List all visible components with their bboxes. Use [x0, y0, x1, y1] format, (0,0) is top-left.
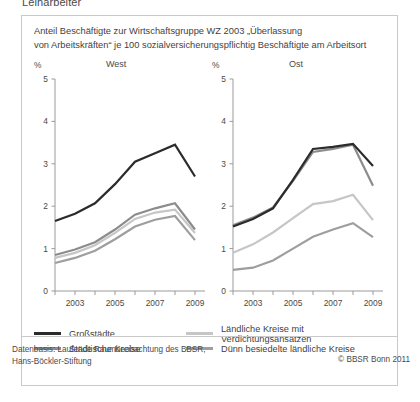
- legend-swatch-icon: [186, 332, 213, 335]
- svg-text:2007: 2007: [146, 298, 165, 308]
- legend-item-laendliche-verdichtung: Ländliche Kreise mit Verdichtungsansätze…: [186, 324, 386, 344]
- svg-text:2005: 2005: [106, 298, 125, 308]
- legend-label: Großstädte: [69, 329, 115, 339]
- series-line: [233, 145, 373, 226]
- series-line: [233, 223, 373, 270]
- legend-swatch-icon: [34, 332, 61, 335]
- data-source-note: Datenbasis: Laufende Raumbeobachtung des…: [12, 344, 364, 367]
- svg-text:2009: 2009: [364, 298, 383, 308]
- series-line: [233, 144, 373, 227]
- legend-row-1: Großstädte Ländliche Kreise mit Verdicht…: [34, 326, 386, 341]
- footer-divider: [21, 336, 398, 337]
- legend-item-grossstaedte: Großstädte: [34, 329, 186, 339]
- svg-text:1: 1: [43, 244, 48, 254]
- svg-text:4: 4: [221, 116, 226, 126]
- page-heading: Leiharbeiter: [22, 0, 81, 8]
- svg-text:2009: 2009: [186, 298, 205, 308]
- series-line: [55, 203, 195, 255]
- svg-text:2: 2: [43, 201, 48, 211]
- svg-text:5: 5: [221, 74, 226, 84]
- svg-text:2003: 2003: [244, 298, 263, 308]
- panel-ost: 0123452003200520072009: [221, 74, 383, 308]
- svg-text:2007: 2007: [324, 298, 343, 308]
- svg-text:2: 2: [221, 201, 226, 211]
- svg-text:0: 0: [43, 286, 48, 296]
- svg-text:2005: 2005: [284, 298, 303, 308]
- legend-label: Ländliche Kreise mit Verdichtungsansätze…: [221, 324, 386, 344]
- footnote-line-1: Datenbasis: Laufende Raumbeobachtung des…: [12, 344, 364, 356]
- footnote-line-2: Hans-Böckler-Stiftung: [12, 356, 364, 368]
- panel-west: 0123452003200520072009: [43, 74, 205, 308]
- svg-text:3: 3: [221, 159, 226, 169]
- svg-text:3: 3: [43, 159, 48, 169]
- copyright-note: © BBSR Bonn 2011: [338, 355, 410, 364]
- svg-text:1: 1: [221, 244, 226, 254]
- svg-text:2003: 2003: [66, 298, 85, 308]
- line-charts: 0123452003200520072009012345200320052007…: [22, 16, 399, 326]
- svg-text:0: 0: [221, 286, 226, 296]
- figure-container: Anteil Beschäftigte zur Wirtschaftsgrupp…: [21, 15, 398, 386]
- svg-text:4: 4: [43, 116, 48, 126]
- svg-text:5: 5: [43, 74, 48, 84]
